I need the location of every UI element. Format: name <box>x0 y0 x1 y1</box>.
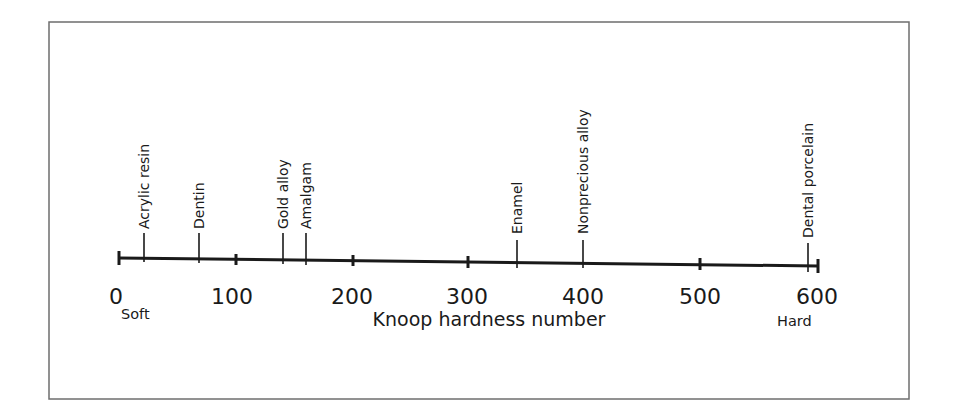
label-dentin: Dentin <box>191 182 207 229</box>
figure-frame <box>49 22 909 399</box>
soft-label: Soft <box>121 306 150 322</box>
tick-label-100: 100 <box>211 284 253 309</box>
tick-label-200: 200 <box>331 284 373 309</box>
hardness-scale-diagram: 0 100 200 300 400 500 600 Soft Hard Knoo… <box>0 0 955 411</box>
label-dental-porcelain: Dental porcelain <box>800 123 816 238</box>
tick-label-500: 500 <box>679 284 721 309</box>
label-nonprecious-alloy: Nonprecious alloy <box>575 109 591 234</box>
label-enamel: Enamel <box>509 182 525 234</box>
tick-label-300: 300 <box>446 284 488 309</box>
label-gold-alloy: Gold alloy <box>275 159 291 229</box>
tick-label-600: 600 <box>796 284 838 309</box>
label-amalgam: Amalgam <box>298 162 314 229</box>
hard-label: Hard <box>777 313 812 329</box>
axis-title: Knoop hardness number <box>373 308 606 330</box>
tick-label-400: 400 <box>562 284 604 309</box>
label-acrylic-resin: Acrylic resin <box>136 144 152 229</box>
